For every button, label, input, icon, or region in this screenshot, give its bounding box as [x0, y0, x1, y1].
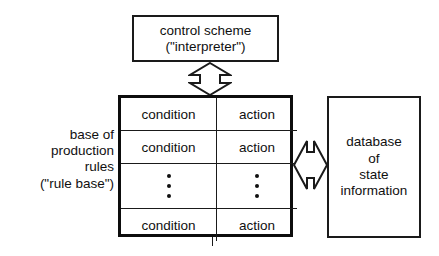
- table-cell-condition-ellipsis: [121, 164, 217, 209]
- database-state-information-box: database of state information: [327, 96, 421, 238]
- table-row-ellipsis: [121, 164, 297, 209]
- vertical-double-arrow-icon: [188, 62, 232, 96]
- production-rule-table: condition action condition action: [118, 95, 293, 237]
- table-cell-action-ellipsis: [217, 164, 298, 209]
- vertical-ellipsis-icon: [217, 164, 297, 208]
- database-line-1: database: [346, 134, 402, 150]
- control-scheme-box: control scheme ("interpreter"): [132, 15, 279, 62]
- rule-base-caption-line-2: production: [4, 143, 114, 159]
- rule-base-caption: base of production rules ("rule base"): [4, 127, 114, 192]
- table-cell-action: action: [217, 98, 298, 131]
- database-line-4: information: [341, 183, 408, 199]
- column-divider-stub: [212, 237, 213, 246]
- horizontal-double-arrow-icon: [293, 139, 328, 191]
- database-line-2: of: [368, 151, 379, 167]
- vertical-ellipsis-icon: [121, 164, 216, 208]
- table-cell-action: action: [217, 131, 298, 164]
- rule-base-caption-line-1: base of: [4, 127, 114, 143]
- table-cell-condition: condition: [121, 131, 217, 164]
- diagram-canvas: control scheme ("interpreter") base of p…: [0, 0, 439, 256]
- table-row: condition action: [121, 131, 297, 164]
- database-line-3: state: [359, 167, 388, 183]
- rule-table-grid: condition action condition action: [121, 98, 297, 241]
- table-cell-action: action: [217, 209, 298, 242]
- rule-base-caption-line-4: ("rule base"): [4, 176, 114, 192]
- table-cell-condition: condition: [121, 209, 217, 242]
- table-row: condition action: [121, 98, 297, 131]
- control-scheme-line-2: ("interpreter"): [165, 39, 245, 55]
- control-scheme-line-1: control scheme: [160, 23, 252, 39]
- rule-base-caption-line-3: rules: [4, 159, 114, 175]
- table-row: condition action: [121, 209, 297, 242]
- table-cell-condition: condition: [121, 98, 217, 131]
